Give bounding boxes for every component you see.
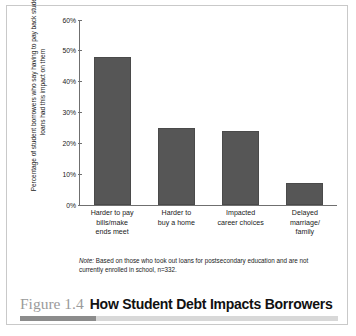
y-tick-label: 0%: [51, 202, 76, 209]
note-label: Note:: [79, 257, 94, 264]
y-tick-label: 10%: [51, 171, 76, 178]
figure-number: Figure 1.4: [20, 295, 84, 313]
y-tick-label: 50%: [51, 47, 76, 54]
chart-note: Note: Based on those who took out loans …: [79, 256, 309, 275]
x-label-harder-to-pay-bills: Harder to paybills/makeends meet: [80, 209, 144, 238]
bar-impacted-career-choices[interactable]: [222, 131, 259, 205]
figure-title: How Student Debt Impacts Borrowers: [90, 296, 333, 312]
x-label-impacted-career-choices: Impactedcareer choices: [209, 209, 273, 238]
bar-series: [80, 20, 337, 205]
bar-harder-to-pay-bills[interactable]: [94, 57, 131, 205]
x-axis-labels: Harder to paybills/makeends meet Harder …: [80, 209, 337, 238]
bar-chart: Percentage of student borrowers who say …: [7, 6, 349, 256]
bar-slot: [80, 20, 144, 205]
note-text: Based on those who took out loans for po…: [79, 257, 308, 273]
x-label-harder-to-buy-a-home: Harder tobuy a home: [144, 209, 208, 238]
bar-slot: [209, 20, 273, 205]
x-label-delayed-marriage-family: Delayedmarriage/family: [273, 209, 337, 238]
plot-area: 60% 50% 40% 30% 20% 10%: [79, 20, 337, 205]
figure-caption: Figure 1.4 How Student Debt Impacts Borr…: [20, 295, 340, 313]
bar-delayed-marriage-family[interactable]: [286, 183, 323, 205]
caption-rule: [20, 316, 338, 321]
y-tick-label: 20%: [51, 140, 76, 147]
x-axis-line: [79, 205, 337, 206]
caption-rule-dark-segment: [20, 316, 96, 321]
caption-rule-light-segment: [96, 316, 338, 321]
y-tick-label: 40%: [51, 78, 76, 85]
bar-harder-to-buy-a-home[interactable]: [158, 128, 195, 205]
y-tick-label: 30%: [51, 109, 76, 116]
figure-card: Percentage of student borrowers who say …: [6, 5, 348, 325]
bar-slot: [144, 20, 208, 205]
y-axis-title: Percentage of student borrowers who say …: [21, 0, 55, 192]
y-tick-label: 60%: [51, 17, 76, 24]
bar-slot: [273, 20, 337, 205]
